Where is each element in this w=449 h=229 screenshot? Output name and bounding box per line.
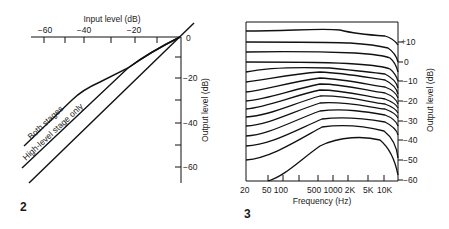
fig3-output-axis-title: Output level (dB) [425, 68, 435, 132]
fig3-right-tick-label: −10 [403, 76, 418, 86]
fig2-output-axis-title: Output level (dB) [200, 78, 210, 142]
fig2-top-ticks [44, 37, 157, 43]
fig2-right-tick-label: −20 [183, 73, 198, 83]
fig3-number: 3 [244, 207, 251, 221]
fig3-x-tick-label: 10K [377, 185, 392, 195]
fig2-tick-label: −40 [77, 25, 92, 35]
fig3-right-tick-label: −20 [403, 96, 418, 106]
fig2-right-tick-label: −60 [183, 162, 198, 172]
fig2-right-tick-label: −40 [183, 118, 198, 128]
fig3-x-tick-label: 50 100 [262, 185, 288, 195]
fig3-right-tick-label: 0 [404, 57, 409, 67]
fig2-tick-label: −60 [38, 25, 53, 35]
fig3-bottom-ticks [268, 175, 384, 181]
figures-canvas: Input level (dB) −60 −40 −20 0 −20 −40 −… [0, 0, 449, 229]
fig3-x-tick-label: 20 [240, 185, 250, 195]
fig3-x-axis-title: Frequency (Hz) [293, 196, 352, 206]
fig2-right-tick-label: 0 [186, 33, 191, 43]
fig2-input-axis-title: Input level (dB) [83, 14, 140, 24]
fig3-right-tick-label: −40 [403, 135, 418, 145]
fig3-response-curves [246, 29, 398, 181]
fig2-unity-line [29, 23, 194, 183]
figure-2: Input level (dB) −60 −40 −20 0 −20 −40 −… [20, 14, 210, 214]
fig3-x-tick-label: 500 1000 2K [307, 185, 356, 195]
fig3-x-tick-label: 5K [363, 185, 374, 195]
fig2-number: 2 [20, 200, 27, 214]
fig3-right-tick-label: −30 [403, 116, 418, 126]
figure-3: 20 50 100 500 1000 2K 5K 10K Frequency (… [240, 22, 435, 221]
fig3-right-tick-label: +10 [401, 37, 416, 47]
fig3-right-tick-label: −50 [403, 155, 418, 165]
fig2-high-level-curve [22, 37, 180, 168]
fig2-tick-label: −20 [127, 25, 142, 35]
fig3-right-tick-label: −60 [403, 175, 418, 185]
fig2-right-ticks [175, 57, 181, 167]
